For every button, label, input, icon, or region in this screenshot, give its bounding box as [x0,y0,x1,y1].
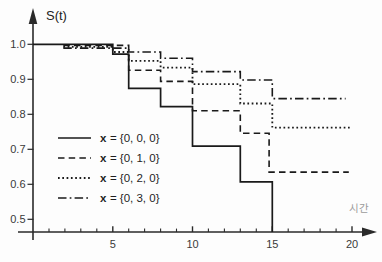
x-axis-tick-label: 5 [110,238,116,250]
legend-label: x= {0, 2, 0} [100,172,160,184]
y-axis-tick-label: 0.8 [10,108,25,120]
x-axis-tick-label: 10 [186,238,198,250]
x-axis-title: 시간 [349,202,369,214]
x-axis-tick-label: 15 [266,238,278,250]
y-axis-tick-label: 0.9 [10,73,25,85]
x-axis-tick-label: 20 [346,238,358,250]
y-axis-title: S(t) [46,8,67,23]
y-axis-tick-label: 0.7 [10,143,25,155]
figure-container: 51015201.00.90.80.70.60.5S(t)시간x= {0, 0,… [0,0,382,262]
legend-label: x= {0, 1, 0} [100,152,160,164]
y-axis-tick-label: 0.5 [10,213,25,225]
y-axis-tick-label: 0.6 [10,178,25,190]
x-axis-arrowhead-icon [362,228,377,237]
y-axis-tick-label: 1.0 [10,38,25,50]
legend-label: x= {0, 0, 0} [100,132,160,144]
y-axis-arrowhead-icon [29,8,38,24]
curve-dashdot [63,48,345,99]
legend-label: x= {0, 3, 0} [100,192,160,204]
curve-dotted [63,47,350,128]
survival-curve-chart: 51015201.00.90.80.70.60.5S(t)시간x= {0, 0,… [0,0,382,262]
